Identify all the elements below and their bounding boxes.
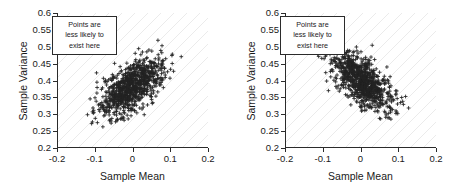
figure-two-scatter-panels: Sample Variance Sample Mean Points are l… — [0, 0, 457, 189]
y-tick — [53, 64, 57, 65]
x-tick-label: 0.1 — [392, 154, 405, 164]
y-tick — [281, 13, 285, 14]
x-tick — [208, 148, 209, 152]
x-tick — [170, 148, 171, 152]
x-tick-label: -0.1 — [315, 154, 331, 164]
y-tick-label: 0.35 — [33, 93, 52, 103]
y-tick-label: 0.6 — [266, 8, 279, 18]
y-tick-label: 0.3 — [266, 110, 279, 120]
x-tick-label: -0.1 — [87, 154, 103, 164]
x-tick-label: 0.1 — [164, 154, 177, 164]
panel-left: Sample Variance Sample Mean Points are l… — [0, 0, 228, 189]
annotation-box-left: Points are less likely to exist here — [52, 16, 117, 55]
y-tick-label: 0.5 — [38, 42, 51, 52]
y-tick — [281, 114, 285, 115]
x-tick — [57, 148, 58, 152]
y-axis-title-right: Sample Variance — [244, 13, 258, 148]
x-tick-label: 0.2 — [429, 154, 442, 164]
x-tick — [285, 148, 286, 152]
y-tick-label: 0.25 — [261, 126, 280, 136]
y-tick-label: 0.2 — [266, 143, 279, 153]
x-tick — [95, 148, 96, 152]
y-tick — [53, 81, 57, 82]
x-tick — [323, 148, 324, 152]
x-tick-label: -0.2 — [277, 154, 293, 164]
plot-area-left: Points are less likely to exist here 0.2… — [57, 13, 208, 148]
y-tick-label: 0.25 — [33, 126, 52, 136]
y-tick — [281, 81, 285, 82]
x-tick-label: 0.2 — [201, 154, 214, 164]
y-tick — [53, 114, 57, 115]
y-tick-label: 0.45 — [261, 59, 280, 69]
y-tick — [53, 13, 57, 14]
y-tick-label: 0.4 — [38, 76, 51, 86]
x-tick-label: 0 — [130, 154, 135, 164]
y-axis-title-left: Sample Variance — [16, 13, 30, 148]
y-tick-label: 0.4 — [266, 76, 279, 86]
y-tick — [281, 64, 285, 65]
panel-right: Sample Variance Sample Mean Points are l… — [228, 0, 456, 189]
x-tick-label: 0 — [358, 154, 363, 164]
y-tick-label: 0.6 — [38, 8, 51, 18]
y-tick-label: 0.5 — [266, 42, 279, 52]
annotation-box-right: Points are less likely to exist here — [280, 16, 345, 55]
y-tick — [281, 97, 285, 98]
x-tick — [361, 148, 362, 152]
y-tick — [281, 131, 285, 132]
plot-area-right: Points are less likely to exist here 0.2… — [285, 13, 436, 148]
x-axis-title-right: Sample Mean — [285, 170, 436, 182]
x-tick — [436, 148, 437, 152]
y-tick-label: 0.55 — [261, 25, 280, 35]
x-axis-title-left: Sample Mean — [57, 170, 208, 182]
y-tick-label: 0.2 — [38, 143, 51, 153]
y-tick-label: 0.35 — [261, 93, 280, 103]
y-tick-label: 0.55 — [33, 25, 52, 35]
x-tick — [133, 148, 134, 152]
y-tick-label: 0.45 — [33, 59, 52, 69]
x-tick — [398, 148, 399, 152]
x-tick-label: -0.2 — [49, 154, 65, 164]
y-tick — [53, 131, 57, 132]
y-tick-label: 0.3 — [38, 110, 51, 120]
y-tick — [53, 97, 57, 98]
